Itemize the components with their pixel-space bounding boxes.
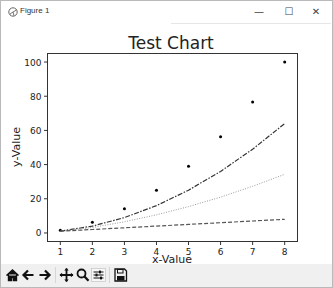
move-icon: [59, 267, 74, 283]
pan-button[interactable]: [59, 267, 74, 283]
y-tick-label: 40: [30, 160, 42, 170]
data-point: [155, 189, 158, 192]
save-button[interactable]: [113, 267, 128, 283]
data-point: [91, 221, 94, 224]
figure-window: Figure 1 — ☐ ✕ Test Chart 020406080100 1…: [0, 0, 333, 288]
x-tick-label: 2: [90, 247, 96, 257]
y-tick-label: 100: [24, 58, 41, 68]
y-tick-label: 20: [30, 194, 42, 204]
forward-button[interactable]: [37, 267, 52, 283]
sliders-icon: [91, 267, 106, 283]
y-axis-label: y-Value: [10, 127, 23, 167]
y-tick-label: 0: [36, 228, 42, 238]
zoom-button[interactable]: [75, 267, 90, 283]
minimize-button[interactable]: —: [247, 4, 271, 20]
data-point: [219, 135, 222, 138]
x-tick-label: 1: [57, 247, 63, 257]
toolbar-separator: [109, 267, 110, 283]
y-tick-label: 80: [30, 92, 42, 102]
toolbar-separator: [55, 267, 56, 283]
chart: Test Chart 020406080100 12345678 x-Value…: [2, 23, 331, 264]
x-tick-label: 8: [282, 247, 288, 257]
chart-title: Test Chart: [127, 33, 214, 53]
figure-canvas[interactable]: Test Chart 020406080100 12345678 x-Value…: [2, 23, 331, 264]
y-tick-label: 60: [30, 126, 42, 136]
plot-area: [48, 54, 298, 242]
configure-subplots-button[interactable]: [91, 267, 106, 283]
magnifier-icon: [75, 267, 90, 283]
close-button[interactable]: ✕: [304, 4, 328, 20]
x-tick-label: 6: [218, 247, 224, 257]
data-point: [123, 207, 126, 210]
data-point: [251, 101, 254, 104]
maximize-button[interactable]: ☐: [277, 4, 301, 20]
window-title: Figure 1: [20, 6, 49, 15]
data-point: [187, 165, 190, 168]
back-button[interactable]: [21, 267, 36, 283]
arrow-right-icon: [37, 267, 52, 283]
x-tick-label: 3: [122, 247, 128, 257]
navigation-toolbar: [1, 264, 332, 287]
arrow-left-icon: [21, 267, 36, 283]
home-button[interactable]: [5, 267, 20, 283]
x-tick-label: 7: [250, 247, 256, 257]
home-icon: [5, 267, 20, 283]
floppy-disk-icon: [113, 267, 128, 283]
y-axis-ticks: 020406080100: [24, 58, 47, 239]
x-axis-label: x-Value: [152, 253, 192, 264]
matplotlib-logo-icon: [8, 7, 18, 17]
title-bar[interactable]: Figure 1 — ☐ ✕: [1, 1, 332, 23]
data-point: [283, 61, 286, 64]
